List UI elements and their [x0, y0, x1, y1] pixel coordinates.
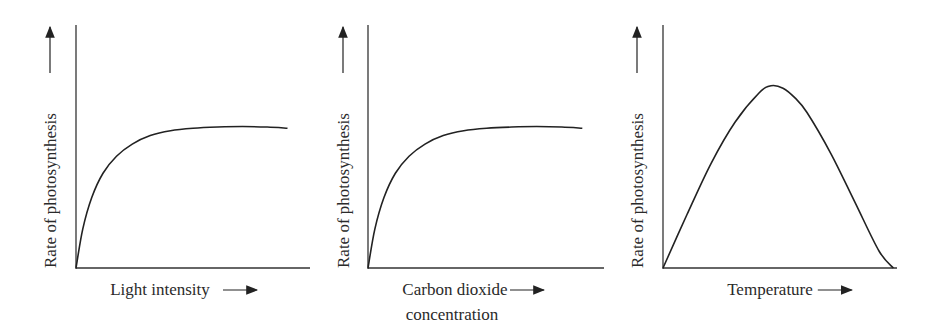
chart-panel-2: Rate of photosynthesisCarbon dioxideconc… [334, 25, 604, 324]
y-axis-label: Rate of photosynthesis [41, 113, 60, 268]
x-axis-label-line-1: Carbon dioxide [402, 280, 507, 299]
x-axis-label: Temperature [727, 280, 813, 299]
x-axis-label: Light intensity [110, 280, 210, 299]
y-axis-label: Rate of photosynthesis [334, 113, 353, 268]
chart-panel-1: Rate of photosynthesisLight intensity [41, 25, 310, 299]
figure: Rate of photosynthesisLight intensityRat… [0, 0, 937, 330]
series-line-rate [663, 85, 893, 268]
series-line-rate [76, 127, 288, 268]
chart-panel-3: Rate of photosynthesisTemperature [628, 25, 897, 299]
y-axis-label: Rate of photosynthesis [628, 113, 647, 268]
x-axis-label-line-2: concentration [406, 305, 499, 324]
series-line-rate [368, 127, 582, 268]
